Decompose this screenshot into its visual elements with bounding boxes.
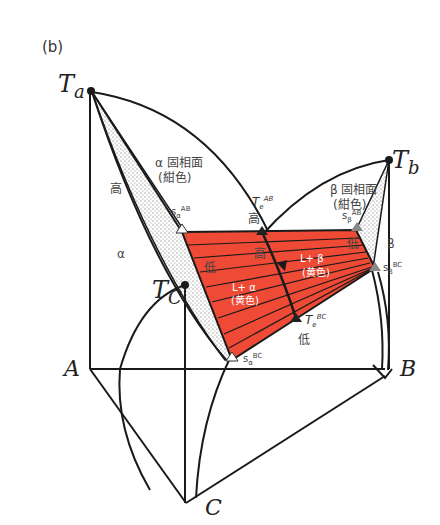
l-alpha-label: L+ α <box>232 283 256 293</box>
beta-solidus-label: β 固相面 <box>330 184 377 196</box>
s-beta-ab-label: sβAB <box>342 210 361 224</box>
vertex-b-label: B <box>400 358 416 380</box>
alpha-phase-label: α <box>117 248 125 260</box>
alpha-solidus-label: α 固相面 <box>155 157 203 169</box>
high-marker-te-ab: 高 <box>248 213 260 225</box>
vertex-ta-dot <box>87 87 95 95</box>
s-alpha-ab-label: sαAB <box>171 206 190 220</box>
vertex-tb-label: Tb <box>392 148 420 177</box>
panel-label: (b) <box>42 40 63 55</box>
vertex-ta-label: Ta <box>58 72 85 101</box>
low-marker-te-bc: 低 <box>298 334 310 346</box>
s-alpha-bc-label: sαBC <box>243 353 262 367</box>
vertex-a-label: A <box>64 358 80 380</box>
high-marker-alpha: 高 <box>110 183 122 195</box>
low-marker-beta: 低 <box>347 238 359 250</box>
te-ab-label: TeAB <box>252 196 273 211</box>
beta-phase-label: β <box>387 238 395 250</box>
l-alpha-color: (黄色) <box>231 296 259 306</box>
te-bc-label: TeBC <box>305 314 326 329</box>
l-beta-color: (黄色) <box>302 268 330 278</box>
low-marker-alpha: 低 <box>204 262 216 274</box>
vertex-tc-label: TC <box>152 278 182 307</box>
l-beta-label: L+ β <box>300 254 324 264</box>
base-triangle <box>90 369 385 503</box>
alpha-solidus-color: (紺色) <box>158 172 191 184</box>
vertex-tc-dot <box>181 281 189 289</box>
vertex-c-label: C <box>205 497 222 519</box>
s-beta-bc-label: sβBC <box>383 262 402 276</box>
high-marker-valley: 高 <box>254 248 266 260</box>
alpha-solidus-surface <box>92 92 232 360</box>
